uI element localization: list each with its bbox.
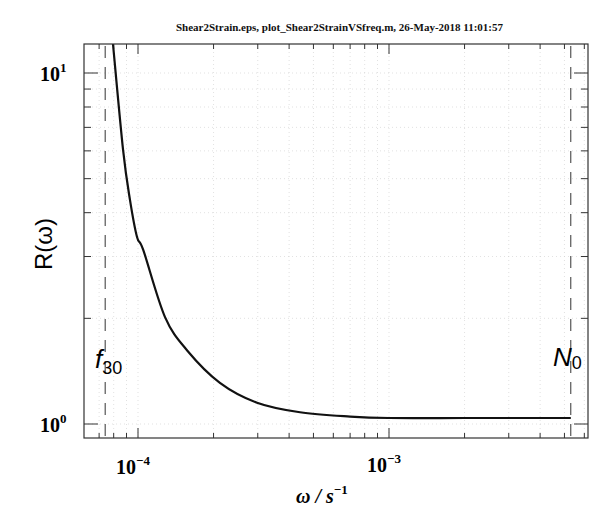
f30-label: f30 [95,344,122,378]
axis-ticks [84,44,588,438]
x-axis-label: ω / s−1 [296,482,348,507]
ytick-label-10-1: 101 [40,60,67,85]
plot-frame [84,44,588,438]
ytick-label-10-0: 100 [40,411,67,436]
y-axis-label: R(ω) [30,218,57,270]
grid-lines [84,44,588,438]
n0-label: N0 [553,342,582,373]
data-curve [113,44,571,418]
xtick-label-10-neg4: 10−4 [116,453,150,478]
log-log-chart: 101 100 10−4 10−3 ω / s−1 R(ω) f30 N0 [0,0,615,530]
xtick-label-10-neg3: 10−3 [367,451,401,476]
reference-lines [105,46,571,436]
